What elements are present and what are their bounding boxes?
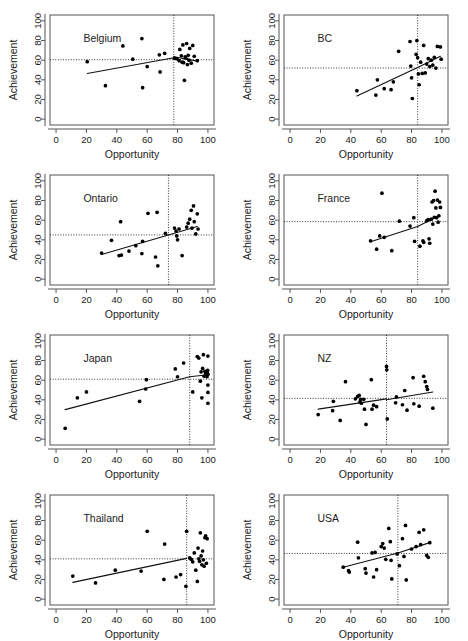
data-point — [156, 264, 160, 268]
y-tick-label: 80 — [266, 355, 277, 366]
data-point — [205, 561, 209, 565]
x-tick-label: 60 — [142, 134, 153, 145]
y-axis-title: Achievement — [7, 520, 19, 581]
data-point — [397, 49, 401, 53]
data-point — [356, 540, 360, 544]
data-point — [437, 214, 441, 218]
y-tick-label: 80 — [32, 355, 43, 366]
data-point — [184, 584, 188, 588]
y-axis-title: Achievement — [241, 40, 253, 101]
x-axis-title: Opportunity — [339, 628, 394, 640]
data-point — [195, 580, 199, 584]
data-point — [141, 86, 145, 90]
data-point — [191, 44, 195, 48]
figure-canvas: 020406080100020406080100OpportunityAchie… — [0, 0, 468, 641]
data-point — [404, 524, 408, 528]
data-point — [187, 58, 191, 62]
panel-title: NZ — [317, 352, 332, 364]
y-tick-label: 40 — [32, 395, 43, 406]
plot-frame — [284, 175, 448, 285]
data-point — [338, 419, 342, 423]
data-point — [331, 409, 335, 413]
data-point — [426, 556, 430, 560]
data-point — [405, 408, 409, 412]
data-point — [390, 249, 394, 253]
data-point — [162, 578, 166, 582]
data-point — [164, 232, 168, 236]
data-point — [408, 224, 412, 228]
data-point — [181, 43, 185, 47]
data-point — [381, 542, 385, 546]
plot-frame — [284, 335, 448, 445]
data-point — [182, 361, 186, 365]
data-point — [184, 56, 188, 60]
data-point — [182, 61, 186, 65]
regression-line-segment-1 — [371, 227, 418, 242]
data-point — [127, 249, 131, 253]
x-tick-label: 40 — [112, 294, 123, 305]
data-point — [422, 528, 426, 532]
x-tick-label: 80 — [406, 294, 417, 305]
data-point — [110, 238, 114, 242]
data-point — [417, 83, 421, 87]
y-tick-label: 0 — [266, 116, 277, 121]
y-tick-label: 80 — [32, 195, 43, 206]
data-point — [119, 220, 123, 224]
y-tick-label: 0 — [32, 596, 43, 601]
data-point — [201, 549, 205, 553]
data-point — [439, 206, 443, 210]
y-tick-label: 60 — [32, 535, 43, 546]
panel-title: USA — [317, 512, 339, 524]
y-tick-label: 60 — [266, 215, 277, 226]
data-point — [179, 573, 183, 577]
data-point — [431, 406, 435, 410]
data-point — [202, 564, 206, 568]
data-point — [385, 365, 389, 369]
data-point — [426, 388, 430, 392]
panel-france: 020406080100020406080100OpportunityAchie… — [234, 160, 468, 320]
data-point — [205, 537, 209, 541]
x-axis-title: Opportunity — [339, 148, 394, 160]
data-point — [192, 551, 196, 555]
data-point — [173, 367, 177, 371]
y-tick-label: 60 — [32, 215, 43, 226]
y-tick-label: 40 — [32, 75, 43, 86]
data-point — [192, 220, 196, 224]
y-tick-label: 40 — [266, 75, 277, 86]
data-point — [185, 42, 189, 46]
data-point — [433, 189, 437, 193]
data-point — [71, 574, 75, 578]
y-tick-label: 0 — [32, 116, 43, 121]
x-tick-label: 0 — [53, 294, 58, 305]
data-point — [394, 401, 398, 405]
x-tick-label: 20 — [315, 294, 326, 305]
data-point — [364, 571, 368, 575]
data-point — [199, 370, 203, 374]
data-point — [375, 568, 379, 572]
data-point — [384, 557, 388, 561]
data-point — [177, 227, 181, 231]
data-point — [202, 558, 206, 562]
x-tick-label: 60 — [376, 614, 387, 625]
panel-bc: 020406080100020406080100OpportunityAchie… — [234, 0, 468, 160]
y-tick-label: 40 — [32, 235, 43, 246]
regression-line-segment-1 — [73, 558, 187, 582]
data-point — [429, 217, 433, 221]
y-tick-label: 100 — [266, 13, 277, 29]
x-tick-label: 80 — [172, 294, 183, 305]
data-point — [196, 227, 200, 231]
y-tick-label: 0 — [266, 596, 277, 601]
data-point — [344, 380, 348, 384]
data-point — [194, 232, 198, 236]
plot-frame — [284, 15, 448, 125]
data-point — [197, 356, 201, 360]
data-point — [195, 59, 199, 63]
data-point — [85, 60, 89, 64]
y-tick-label: 100 — [266, 333, 277, 349]
data-point — [364, 423, 368, 427]
data-point — [94, 581, 98, 585]
regression-line-segment-1 — [65, 377, 190, 410]
data-point — [185, 225, 189, 229]
data-point — [180, 54, 184, 58]
data-point — [63, 426, 67, 430]
